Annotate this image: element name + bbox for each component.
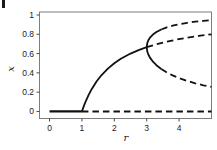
y-tick-label: 0.2 bbox=[22, 87, 34, 97]
y-axis-label: x bbox=[4, 60, 18, 78]
y-tick-label: 0.6 bbox=[22, 49, 34, 59]
y-tick-label: 1 bbox=[29, 10, 34, 20]
series-period2-upper-unstable bbox=[161, 20, 211, 29]
y-tick-label: 0.8 bbox=[22, 29, 34, 39]
x-tick-label: 1 bbox=[80, 123, 85, 133]
y-tick-label: 0 bbox=[29, 106, 34, 116]
series-fixed-point-unstable bbox=[147, 34, 212, 47]
x-tick-label: 0 bbox=[47, 123, 52, 133]
x-axis-label: r bbox=[40, 132, 212, 143]
x-tick-label: 3 bbox=[144, 123, 149, 133]
series-period2-upper-stable bbox=[147, 29, 162, 47]
series-period2-lower-unstable bbox=[161, 69, 211, 87]
x-tick-label: 2 bbox=[112, 123, 117, 133]
x-tick-label: 4 bbox=[177, 123, 182, 133]
bifurcation-chart: 0123400.20.40.60.81 bbox=[0, 0, 217, 150]
bifurcation-figure: 0123400.20.40.60.81 x r bbox=[0, 0, 217, 150]
series-period2-lower-stable bbox=[147, 47, 162, 69]
series-fixed-point-stable bbox=[82, 47, 147, 111]
plot-frame bbox=[40, 12, 212, 119]
y-tick-label: 0.4 bbox=[22, 68, 34, 78]
